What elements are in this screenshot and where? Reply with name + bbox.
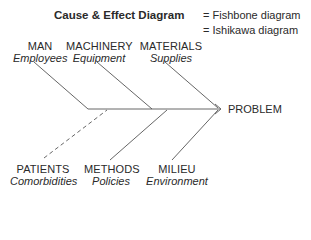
- effect-problem: PROBLEM: [228, 103, 282, 115]
- cause-category: METHODS: [84, 163, 138, 175]
- cause-category: MILIEU: [146, 163, 208, 175]
- cause-description: Environment: [146, 175, 208, 187]
- cause-methods: METHODS Policies: [84, 163, 138, 187]
- bone-materials: [165, 62, 218, 108]
- cause-category: PATIENTS: [10, 163, 76, 175]
- bone-milieu: [172, 110, 218, 160]
- cause-description: Equipment: [66, 52, 132, 64]
- cause-category: MAN: [13, 40, 67, 52]
- cause-description: Comorbidities: [10, 175, 76, 187]
- cause-category: MATERIALS: [139, 40, 203, 52]
- cause-description: Supplies: [139, 52, 203, 64]
- cause-description: Policies: [84, 175, 138, 187]
- cause-man: MAN Employees: [13, 40, 67, 64]
- bone-machinery: [97, 62, 152, 109]
- cause-category: MACHINERY: [66, 40, 132, 52]
- cause-description: Employees: [13, 52, 67, 64]
- bone-methods: [110, 110, 167, 160]
- cause-materials: MATERIALS Supplies: [139, 40, 203, 64]
- bone-patients: [44, 110, 107, 158]
- cause-machinery: MACHINERY Equipment: [66, 40, 132, 64]
- bone-man: [34, 62, 88, 109]
- cause-milieu: MILIEU Environment: [146, 163, 208, 187]
- cause-patients: PATIENTS Comorbidities: [10, 163, 76, 187]
